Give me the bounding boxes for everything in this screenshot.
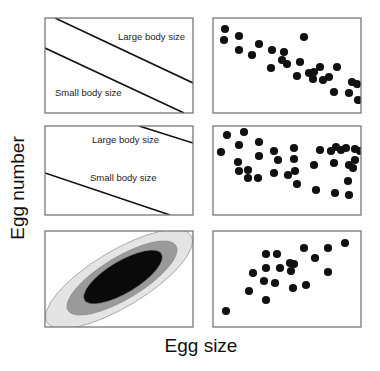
- data-point: [333, 63, 341, 71]
- data-point: [262, 250, 270, 258]
- data-point: [290, 155, 298, 163]
- plot-area: [222, 239, 349, 315]
- data-point: [260, 277, 268, 285]
- data-point: [345, 89, 353, 97]
- data-point: [221, 25, 229, 33]
- data-point: [273, 250, 281, 258]
- data-point: [284, 171, 292, 179]
- data-point: [316, 63, 324, 71]
- x-axis-label-text: Egg size: [165, 335, 238, 357]
- data-point: [255, 40, 263, 48]
- data-point: [353, 80, 361, 88]
- large-body-size-label: Large body size: [92, 134, 159, 145]
- data-point: [309, 75, 317, 83]
- data-point: [296, 58, 304, 66]
- data-point: [342, 144, 350, 152]
- data-point: [325, 73, 333, 81]
- data-point: [312, 186, 320, 194]
- data-point: [235, 167, 243, 175]
- plot-area: Large body sizeSmall body size: [45, 126, 193, 215]
- data-point: [287, 267, 295, 275]
- data-point: [300, 33, 308, 41]
- data-point: [331, 189, 339, 197]
- plot-area: Large body sizeSmall body size: [45, 18, 193, 113]
- data-point: [244, 174, 252, 182]
- data-point: [349, 164, 357, 172]
- data-point: [271, 279, 279, 287]
- data-point: [324, 244, 332, 252]
- data-point: [291, 167, 299, 175]
- data-point: [255, 138, 263, 146]
- data-point: [330, 159, 338, 167]
- data-point: [344, 177, 352, 185]
- plot-area: [33, 212, 206, 347]
- large-body-size-line: [55, 18, 193, 83]
- plot-area: [217, 128, 364, 199]
- data-point: [351, 156, 359, 164]
- data-point: [270, 147, 278, 155]
- data-point: [249, 269, 257, 277]
- figure-canvas: Large body sizeSmall body sizeLarge body…: [0, 0, 380, 371]
- data-point: [262, 264, 270, 272]
- data-point: [311, 254, 319, 262]
- small-body-size-label: Small body size: [90, 172, 157, 183]
- data-point: [217, 148, 225, 156]
- data-point: [262, 296, 270, 304]
- data-point: [235, 46, 243, 54]
- panel-frame: [213, 231, 361, 327]
- panel-row3-left: [33, 212, 206, 347]
- panel-row1-right: [213, 18, 362, 113]
- data-point: [276, 264, 284, 272]
- x-axis-label: Egg size: [0, 335, 380, 357]
- plot-area: [220, 25, 362, 104]
- data-point: [345, 191, 353, 199]
- data-point: [302, 281, 310, 289]
- data-point: [274, 156, 282, 164]
- small-body-size-line: [45, 48, 184, 113]
- data-point: [290, 260, 298, 268]
- data-point: [280, 48, 288, 56]
- data-point: [235, 141, 243, 149]
- data-point: [255, 152, 263, 160]
- data-point: [330, 88, 338, 96]
- data-point: [356, 147, 364, 155]
- large-body-size-label: Large body size: [118, 31, 185, 42]
- data-point: [222, 307, 230, 315]
- small-body-size-label: Small body size: [55, 87, 122, 98]
- data-point: [268, 46, 276, 54]
- data-point: [290, 144, 298, 152]
- data-point: [293, 180, 301, 188]
- data-point: [316, 146, 324, 154]
- data-point: [324, 268, 332, 276]
- panel-row2-right: [213, 126, 364, 215]
- data-point: [223, 131, 231, 139]
- data-point: [220, 36, 228, 44]
- data-point: [289, 284, 297, 292]
- data-point: [240, 128, 248, 136]
- data-point: [300, 244, 308, 252]
- data-point: [267, 64, 275, 72]
- data-point: [248, 51, 256, 59]
- data-point: [235, 32, 243, 40]
- data-point: [244, 166, 252, 174]
- data-point: [293, 72, 301, 80]
- panel-row3-right: [213, 231, 361, 327]
- data-point: [283, 60, 291, 68]
- data-point: [254, 174, 262, 182]
- data-point: [310, 161, 318, 169]
- data-point: [341, 239, 349, 247]
- data-point: [245, 287, 253, 295]
- data-point: [270, 169, 278, 177]
- panel-row1-left: Large body sizeSmall body size: [45, 18, 193, 113]
- panel-row2-left: Large body sizeSmall body size: [45, 126, 193, 215]
- data-point: [234, 158, 242, 166]
